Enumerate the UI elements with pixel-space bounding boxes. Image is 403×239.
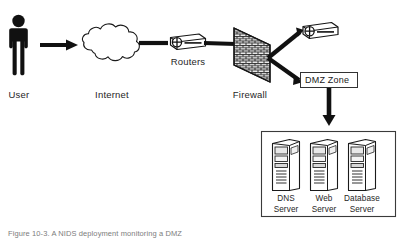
firewall-label: Firewall [219,89,281,100]
cloud-icon [82,24,139,61]
server-label-database-line1: Database [339,194,385,204]
brick-wall-icon [234,28,270,82]
internet-label: Internet [82,89,142,100]
router-icon [171,34,206,50]
server-tower-icon [272,139,300,194]
connection-firewall-branch [268,28,304,86]
server-label-dns-line1: DNS [266,194,306,204]
connection-dmz-to-servers [323,88,336,126]
server-label-dns-line2: Server [266,205,306,215]
routers-label: Routers [161,56,215,67]
server-label-web-line2: Server [304,205,344,215]
dmz-zone-label: DMZ Zone [305,75,349,85]
network-diagram: User Internet Routers Firewall DMZ Zone … [0,0,403,239]
connection-routers-to-firewall [204,43,236,44]
server-label-web-line1: Web [304,194,344,204]
server-tower-icon [349,140,376,191]
server-label-database-line2: Server [339,205,385,215]
person-icon [9,15,28,76]
user-label: User [2,89,36,100]
router-icon [303,23,338,39]
server-tower-icon [311,140,338,191]
connection-user-to-internet [40,40,78,51]
figure-caption: Figure 10-3. A NIDS deployment monitorin… [8,229,182,238]
